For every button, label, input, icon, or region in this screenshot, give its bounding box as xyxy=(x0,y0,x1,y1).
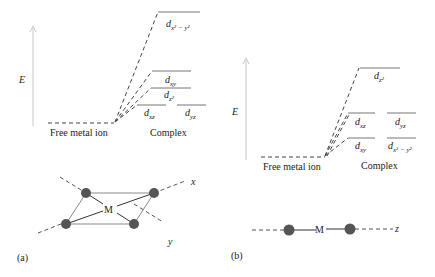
energy-axis-label: E xyxy=(18,74,25,85)
axis-y-label: y xyxy=(167,236,173,247)
complex-label: Complex xyxy=(361,160,398,171)
ligand-atom xyxy=(61,219,71,229)
label-dxz: dxz xyxy=(144,107,155,121)
panel-b-energy-diagram: E Free metal ion Complex dz² dxz dyz dxy… xyxy=(231,58,416,172)
panel-b-tag: (b) xyxy=(231,250,243,262)
crystal-field-diagram: E Free metal ion Complex dx² − y² dxy dz… xyxy=(0,0,435,277)
panel-a-energy-diagram: E Free metal ion Complex dx² − y² dxy dz… xyxy=(18,12,206,138)
axis-z-label: z xyxy=(394,223,399,234)
ligand-atom xyxy=(81,188,91,198)
label-dxy: dxy xyxy=(355,140,367,154)
axis-x-label: x xyxy=(190,176,196,187)
label-dyz: dyz xyxy=(185,107,196,121)
metal-center-label: M xyxy=(104,204,113,215)
ligand-atom xyxy=(284,225,295,236)
label-dyz: dyz xyxy=(395,116,406,130)
panel-a-square-planar-geometry: M x y (a) xyxy=(17,176,196,264)
panel-a-tag: (a) xyxy=(17,252,28,264)
free-ion-label: Free metal ion xyxy=(50,127,108,138)
label-dxy: dxy xyxy=(165,74,177,88)
panel-b-linear-geometry: M z (b) xyxy=(231,223,399,262)
label-dx2-y2: dx² − y² xyxy=(166,18,191,32)
complex-label: Complex xyxy=(150,127,187,138)
label-dz2: dz² xyxy=(374,70,385,84)
metal-center-label: M xyxy=(315,224,324,235)
label-dxz: dxz xyxy=(355,116,366,130)
ligand-atom xyxy=(129,219,139,229)
label-dx2-y2: dx² − y² xyxy=(388,140,413,154)
free-ion-label: Free metal ion xyxy=(263,161,321,172)
ligand-atom xyxy=(345,224,356,235)
ligand-atom xyxy=(149,188,159,198)
label-dz2: dz² xyxy=(164,89,175,103)
energy-axis-label: E xyxy=(231,106,238,117)
